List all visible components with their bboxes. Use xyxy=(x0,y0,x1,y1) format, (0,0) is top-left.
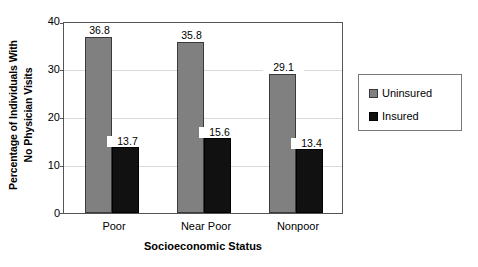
y-tickmark-20 xyxy=(60,118,64,119)
legend-item-uninsured: Uninsured xyxy=(369,83,461,103)
legend-swatch-insured-icon xyxy=(369,112,378,121)
y-axis-title-line-2: No Physician Visits xyxy=(21,68,36,163)
y-tickmark-10 xyxy=(60,166,64,167)
bar-label-poor-insured: 13.7 xyxy=(107,136,148,147)
y-axis-title-line-1: Percentage of Individuals With xyxy=(6,40,21,190)
bar-chart-figure: Percentage of Individuals With No Physic… xyxy=(0,0,478,267)
bar-label-nonpoor-uninsured: 29.1 xyxy=(263,62,304,73)
y-tickmark-30 xyxy=(60,70,64,71)
bar-label-poor-uninsured: 36.8 xyxy=(79,25,120,36)
bar-nonpoor-insured xyxy=(296,149,323,213)
y-tick-label-40: 40 xyxy=(38,16,60,27)
y-tickmark-40 xyxy=(60,23,64,24)
y-tick-label-0: 0 xyxy=(38,208,60,219)
y-tick-label-30: 30 xyxy=(38,64,60,75)
legend-label-uninsured: Uninsured xyxy=(382,87,432,99)
bar-label-nonpoor-insured: 13.4 xyxy=(291,138,332,149)
legend-swatch-uninsured-icon xyxy=(369,89,378,98)
y-axis-tick-labels: 40 30 20 10 0 xyxy=(36,0,60,267)
y-tickmark-0 xyxy=(60,213,64,214)
bar-near-poor-insured xyxy=(204,138,231,213)
bar-label-near-poor-uninsured: 35.8 xyxy=(171,30,212,41)
bar-poor-uninsured xyxy=(85,37,112,213)
bar-poor-insured xyxy=(112,147,139,213)
y-tick-label-20: 20 xyxy=(38,112,60,123)
chart-legend: Uninsured Insured xyxy=(358,74,462,131)
y-tick-label-10: 10 xyxy=(38,160,60,171)
plot-area: 36.8 13.7 35.8 15.6 29.1 13.4 xyxy=(63,22,343,214)
y-axis-title: Percentage of Individuals With No Physic… xyxy=(4,20,38,210)
x-axis-title: Socioeconomic Status xyxy=(63,240,343,252)
x-tick-label-near-poor: Near Poor xyxy=(176,220,236,232)
x-tick-label-poor: Poor xyxy=(84,220,144,232)
x-tick-label-nonpoor: Nonpoor xyxy=(268,220,328,232)
bar-label-near-poor-insured: 15.6 xyxy=(199,127,240,138)
legend-label-insured: Insured xyxy=(382,110,419,122)
legend-item-insured: Insured xyxy=(369,106,461,126)
